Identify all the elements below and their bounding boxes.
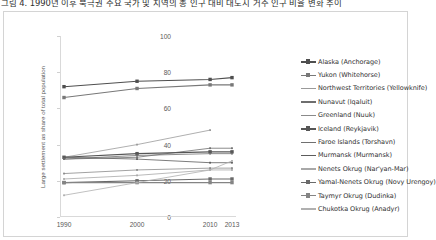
legend-swatch-icon [301, 138, 316, 147]
series-marker [136, 155, 138, 157]
legend-marker [306, 59, 310, 63]
legend-item-label: Greenland (Nuuk) [318, 111, 375, 119]
series-marker [209, 129, 211, 131]
legend-item-label: Northwest Territories (Yellowknife) [318, 84, 427, 92]
series-marker [209, 162, 211, 164]
legend-swatch-icon [301, 97, 316, 106]
series-lines [60, 25, 236, 217]
series-marker [135, 87, 138, 90]
legend-swatch-icon [301, 191, 316, 200]
series-line [64, 170, 232, 179]
series-marker [208, 181, 211, 184]
series-marker [208, 78, 211, 81]
legend-marker [306, 126, 310, 130]
series-marker [63, 158, 65, 160]
legend-item[interactable]: Greenland (Nuuk) [301, 109, 413, 122]
series-marker [63, 194, 65, 196]
series-marker [136, 174, 138, 176]
series-1 [62, 83, 233, 99]
series-4 [63, 167, 233, 174]
series-marker [209, 147, 211, 149]
series-marker [208, 83, 211, 86]
legend-marker [306, 193, 310, 197]
legend-line [301, 101, 316, 102]
series-10 [62, 181, 233, 184]
series-marker [136, 158, 138, 160]
legend-item-label: Yukon (Whitehorse) [318, 71, 380, 79]
legend-item-label: Murmansk (Murmansk) [318, 151, 392, 159]
legend-line [301, 115, 316, 116]
legend-marker [306, 180, 310, 184]
legend-swatch-icon [301, 204, 316, 213]
legend-line [301, 208, 316, 209]
series-marker [63, 178, 65, 180]
legend-item-label: Chukotka Okrug (Anadyr) [318, 205, 400, 213]
legend-item-label: Taymyr Okrug (Dudinka) [318, 192, 396, 200]
legend-marker [306, 73, 310, 77]
legend-line [301, 168, 316, 169]
x-axis-tick-label: 2013 [212, 221, 252, 228]
legend-swatch-icon [301, 71, 316, 80]
legend-swatch-icon [301, 178, 316, 187]
series-marker [135, 80, 138, 83]
legend-item[interactable]: Taymyr Okrug (Dudinka) [301, 189, 413, 202]
series-marker [136, 156, 138, 158]
series-marker [230, 76, 233, 79]
legend-item-label: Nenets Okrug (Nar'yan-Mar) [318, 165, 408, 173]
legend-swatch-icon [301, 84, 316, 93]
series-marker [230, 181, 233, 184]
series-marker [63, 156, 65, 158]
legend-item[interactable]: Chukotka Okrug (Anadyr) [301, 202, 413, 215]
y-axis-tick-mark [57, 217, 60, 218]
series-marker [63, 173, 65, 175]
legend-item-label: Alaska (Anchorage) [318, 58, 381, 66]
series-marker [230, 83, 233, 86]
series-marker [231, 169, 233, 171]
legend-item-label: Nunavut (Iqaluit) [318, 98, 372, 106]
series-marker [231, 167, 233, 169]
legend-item-label: Yamal-Nenets Okrug (Novy Urengoy) [318, 178, 436, 186]
series-marker [231, 160, 233, 162]
series-marker [209, 153, 211, 155]
series-marker [62, 96, 65, 99]
y-axis-title-text: Large settlement as share of total popul… [39, 52, 46, 202]
figure-caption-text: 그림 4. 1990년 이후 북극권 주요 국가 및 지역의 총 인구 대비 대… [1, 0, 342, 8]
legend-item-label: Iceland (Reykjavik) [318, 125, 379, 133]
legend-item[interactable]: Faroe Islands (Torshavn) [301, 135, 413, 148]
legend-line [301, 155, 316, 156]
series-0 [62, 76, 233, 88]
series-marker [62, 85, 65, 88]
chart-legend: Alaska (Anchorage)Yukon (Whitehorse)Nort… [301, 55, 413, 216]
y-axis-title: Large settlement as share of total popul… [15, 36, 29, 217]
chart-container: Large settlement as share of total popul… [3, 11, 408, 237]
figure-caption: 그림 4. 1990년 이후 북극권 주요 국가 및 지역의 총 인구 대비 대… [0, 0, 412, 11]
series-marker [62, 181, 65, 184]
series-marker [136, 182, 138, 184]
series-marker [136, 144, 138, 146]
legend-item-label: Faroe Islands (Torshavn) [318, 138, 395, 146]
series-marker [209, 169, 211, 171]
legend-swatch-icon [301, 111, 316, 120]
legend-item[interactable]: Nenets Okrug (Nar'yan-Mar) [301, 162, 413, 175]
series-marker [209, 167, 211, 169]
legend-item[interactable]: Iceland (Reykjavik) [301, 122, 413, 135]
plot-area [60, 25, 236, 217]
x-axis-tick-label: 2000 [117, 221, 157, 228]
series-7 [63, 156, 233, 163]
series-marker [208, 177, 211, 180]
legend-item[interactable]: Alaska (Anchorage) [301, 55, 413, 68]
legend-item[interactable]: Northwest Territories (Yellowknife) [301, 82, 413, 95]
series-marker [136, 169, 138, 171]
series-marker [231, 162, 233, 164]
legend-item[interactable]: Nunavut (Iqaluit) [301, 95, 413, 108]
legend-item[interactable]: Yamal-Nenets Okrug (Novy Urengoy) [301, 176, 413, 189]
series-line [64, 85, 232, 98]
series-marker [230, 177, 233, 180]
legend-item[interactable]: Yukon (Whitehorse) [301, 68, 413, 81]
legend-swatch-icon [301, 151, 316, 160]
legend-item[interactable]: Murmansk (Murmansk) [301, 149, 413, 162]
series-marker [231, 153, 233, 155]
legend-line [301, 88, 316, 89]
x-axis-tick-label: 1990 [44, 221, 84, 228]
legend-swatch-icon [301, 124, 316, 133]
